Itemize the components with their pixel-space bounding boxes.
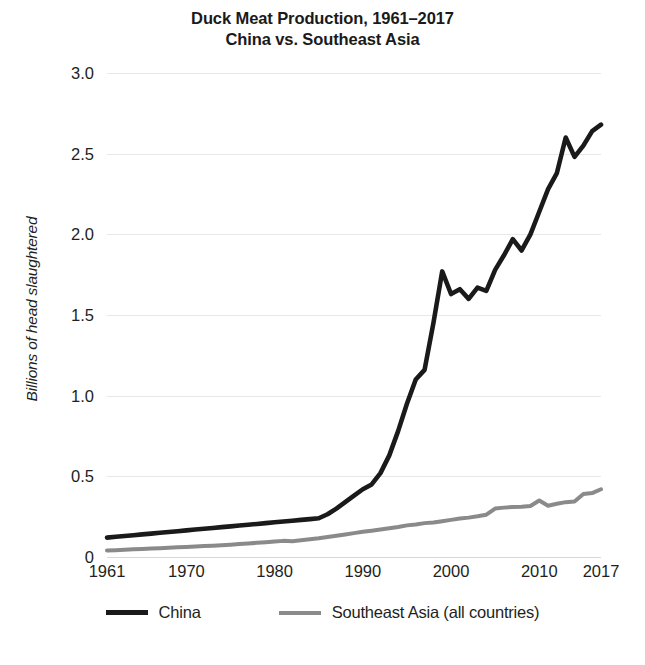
plot-area <box>0 0 645 665</box>
legend-label-china: China <box>159 603 201 622</box>
legend-item-southeast-asia[interactable]: Southeast Asia (all countries) <box>279 603 540 622</box>
series-line-china <box>107 125 601 538</box>
duck-meat-production-chart: Duck Meat Production, 1961–2017 China vs… <box>0 0 645 665</box>
chart-legend: China Southeast Asia (all countries) <box>0 603 645 622</box>
legend-swatch-southeast-asia <box>279 611 321 615</box>
legend-label-southeast-asia: Southeast Asia (all countries) <box>332 603 540 622</box>
legend-item-china[interactable]: China <box>106 603 201 622</box>
legend-swatch-china <box>106 610 148 615</box>
